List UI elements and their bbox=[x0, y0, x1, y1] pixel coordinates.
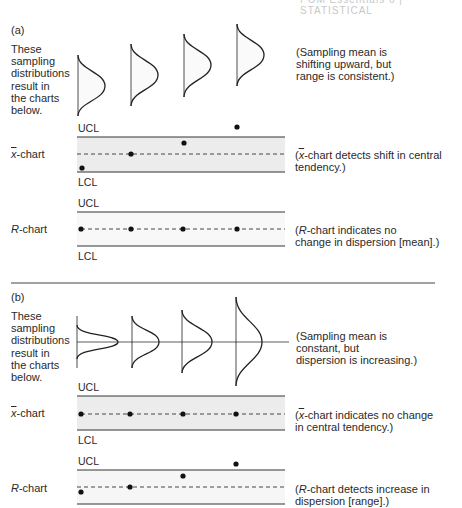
r-chart-note: (R-chart indicates no change in dispersi… bbox=[295, 224, 462, 248]
r-symbol: R bbox=[299, 224, 307, 236]
description-line: These bbox=[11, 43, 81, 55]
note-line: shifting upward, but bbox=[296, 58, 461, 70]
r-chart-note: (R-chart detects increase in dispersion … bbox=[295, 483, 462, 507]
description-line: These bbox=[11, 310, 81, 322]
chart-name-suffix: -chart bbox=[19, 482, 47, 494]
distribution-curve-icon bbox=[236, 297, 262, 386]
chart-name-suffix: -chart bbox=[19, 223, 47, 235]
distribution-curve-icon bbox=[237, 24, 264, 86]
chart-name-suffix: -chart bbox=[17, 148, 45, 160]
distribution-curve-icon bbox=[184, 34, 211, 97]
ucl-label: UCL bbox=[78, 455, 99, 467]
note-line: -chart indicates no change bbox=[304, 409, 433, 421]
distribution-curve-icon bbox=[182, 310, 212, 373]
description-line: distributions bbox=[11, 67, 81, 79]
lcl-label: LCL bbox=[78, 434, 97, 446]
r-symbol: R bbox=[11, 223, 19, 235]
description-line: sampling bbox=[11, 55, 81, 67]
lcl-label: LCL bbox=[78, 176, 97, 188]
ucl-label: UCL bbox=[78, 122, 99, 134]
xbar-chart-note: (x-chart detects shift in central tenden… bbox=[295, 149, 462, 173]
note-line: (Sampling mean is bbox=[296, 330, 461, 342]
panel-b-note: (Sampling mean is constant, but dispersi… bbox=[296, 330, 461, 367]
r-symbol: R bbox=[11, 482, 19, 494]
note-line: -chart detects shift in central bbox=[304, 149, 442, 161]
ucl-label: UCL bbox=[78, 381, 99, 393]
description-line: result in bbox=[11, 80, 81, 92]
description-line: below. bbox=[11, 371, 81, 383]
xbar-chart-note: (x-chart indicates no change in central … bbox=[295, 409, 462, 433]
note-line: in central tendency.) bbox=[295, 421, 462, 433]
note-line: dispersion [range].) bbox=[295, 495, 462, 507]
panel-b-xbar-chart bbox=[77, 396, 285, 430]
description-line: result in bbox=[11, 347, 81, 359]
note-line: -chart detects increase in bbox=[307, 483, 430, 495]
panel-b-description: These sampling distributions result in t… bbox=[11, 310, 81, 383]
panel-b-r-chart bbox=[77, 461, 285, 504]
r-chart-name: R-chart bbox=[11, 482, 47, 494]
note-line: change in dispersion [mean].) bbox=[295, 236, 462, 248]
panel-a-xbar-chart bbox=[77, 124, 285, 172]
panel-a-note: (Sampling mean is shifting upward, but r… bbox=[296, 46, 461, 83]
note-line: dispersion is increasing.) bbox=[296, 354, 461, 366]
distribution-curve-icon bbox=[131, 44, 158, 106]
r-symbol: R bbox=[299, 483, 307, 495]
lcl-label: LCL bbox=[78, 250, 97, 262]
description-line: the charts bbox=[11, 92, 81, 104]
note-line: tendency.) bbox=[295, 161, 462, 173]
panel-a-distributions bbox=[78, 24, 264, 116]
note-line: constant, but bbox=[296, 342, 461, 354]
xbar-chart-name: x-chart bbox=[11, 407, 45, 419]
description-line: the charts bbox=[11, 359, 81, 371]
note-line: (Sampling mean is bbox=[296, 46, 461, 58]
note-line: -chart indicates no bbox=[307, 224, 397, 236]
xbar-chart-name: x-chart bbox=[11, 148, 45, 160]
panel-b-label: (b) bbox=[11, 291, 24, 303]
chart-name-suffix: -chart bbox=[17, 407, 45, 419]
panel-b-distributions bbox=[77, 297, 289, 386]
note-line: range is consistent.) bbox=[296, 70, 461, 82]
distribution-curve-icon bbox=[78, 55, 105, 116]
description-line: sampling bbox=[11, 322, 81, 334]
description-line: distributions bbox=[11, 334, 81, 346]
panel-a-label: (a) bbox=[11, 24, 24, 36]
panel-a-r-chart bbox=[77, 212, 285, 246]
r-chart-name: R-chart bbox=[11, 223, 47, 235]
ucl-label: UCL bbox=[78, 197, 99, 209]
description-line: below. bbox=[11, 104, 81, 116]
panel-a-description: These sampling distributions result in t… bbox=[11, 43, 81, 116]
